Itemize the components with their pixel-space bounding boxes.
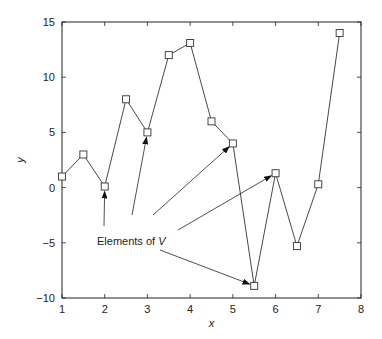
annotation-arrow	[178, 176, 271, 230]
data-point-marker	[251, 282, 258, 289]
annotation-arrow	[104, 191, 105, 226]
y-tick-label: −5	[42, 237, 55, 249]
data-point-marker	[229, 140, 236, 147]
annotation-arrow	[160, 250, 250, 284]
data-series	[59, 30, 344, 290]
y-tick-label: −10	[36, 292, 55, 304]
data-point-marker	[336, 30, 343, 37]
line-chart: 12345678−10−5051015xy Elements of V	[0, 0, 382, 339]
y-tick-label: 5	[49, 126, 55, 138]
x-tick-label: 6	[273, 303, 279, 315]
x-tick-label: 3	[144, 303, 150, 315]
annotation: Elements of V	[97, 137, 271, 284]
data-point-marker	[144, 129, 151, 136]
data-point-marker	[315, 181, 322, 188]
annotation-text: Elements of V	[97, 235, 167, 247]
data-point-marker	[187, 39, 194, 46]
annotation-arrow	[153, 147, 229, 215]
x-tick-label: 7	[315, 303, 321, 315]
x-axis-label: x	[208, 317, 215, 329]
annotation-arrow	[132, 137, 147, 215]
y-tick-label: 15	[43, 16, 55, 28]
data-point-marker	[101, 183, 108, 190]
plot-frame	[62, 22, 361, 298]
data-point-marker	[165, 52, 172, 59]
x-tick-label: 8	[358, 303, 364, 315]
y-tick-label: 10	[43, 71, 55, 83]
x-tick-label: 1	[59, 303, 65, 315]
data-point-marker	[123, 96, 130, 103]
x-tick-label: 5	[230, 303, 236, 315]
data-point-marker	[293, 243, 300, 250]
x-tick-label: 2	[102, 303, 108, 315]
data-point-marker	[208, 118, 215, 125]
data-point-marker	[80, 151, 87, 158]
data-point-marker	[272, 170, 279, 177]
y-tick-label: 0	[49, 182, 55, 194]
data-point-marker	[59, 173, 66, 180]
x-tick-label: 4	[187, 303, 193, 315]
y-axis-label: y	[14, 156, 26, 164]
